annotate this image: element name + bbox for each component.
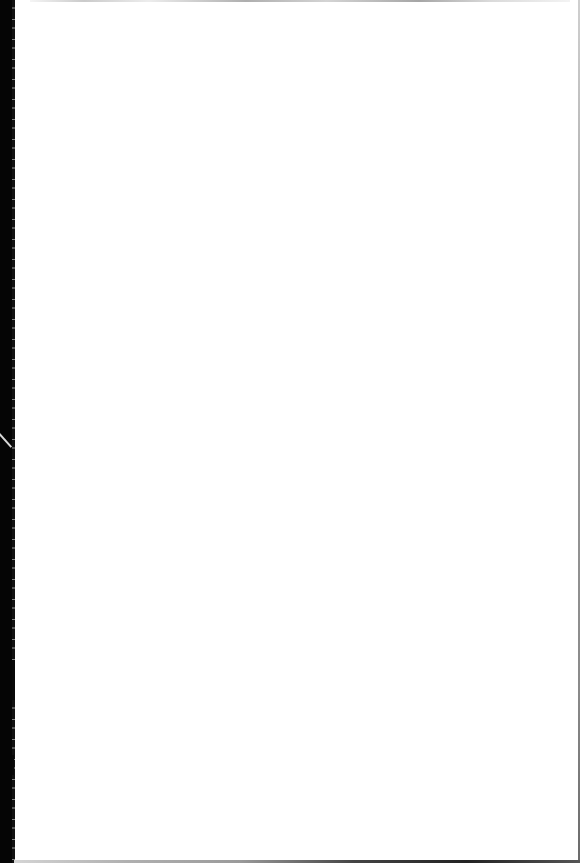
shadow-bulge [12, 755, 14, 775]
shadow-bulge [12, 660, 15, 700]
top-page-edge [30, 0, 570, 2]
binding-shadow-edge [0, 0, 13, 863]
scanned-blank-page [0, 0, 580, 863]
ragged-edge [12, 0, 15, 863]
